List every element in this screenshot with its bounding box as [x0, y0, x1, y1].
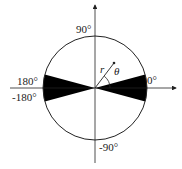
label-0: 0°: [147, 74, 157, 86]
label-theta: θ: [114, 65, 120, 77]
label-neg90: -90°: [99, 141, 118, 153]
polar-diagram: 90° -90° 0° 180° -180° r θ: [0, 0, 182, 169]
radius-endpoint: [113, 62, 116, 65]
label-90: 90°: [76, 23, 91, 35]
label-180: 180°: [17, 75, 38, 87]
label-r: r: [100, 63, 105, 75]
label-neg180: -180°: [12, 91, 37, 103]
